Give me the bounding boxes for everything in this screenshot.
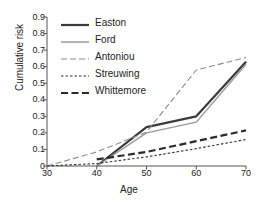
legend-label: Streuwing <box>95 65 139 82</box>
legend-item-whittemore[interactable]: Whittemore <box>61 81 181 98</box>
legend-swatch-icon <box>61 51 89 63</box>
legend-label: Whittemore <box>95 82 146 99</box>
legend-swatch-icon <box>61 85 89 97</box>
legend-label: Ford <box>95 31 116 48</box>
legend-label: Easton <box>95 14 126 31</box>
legend-item-antoniou[interactable]: Antoniou <box>61 47 181 64</box>
series-line-streuwing <box>47 140 246 166</box>
chart-legend: EastonFordAntoniouStreuwingWhittemore <box>61 13 181 98</box>
legend-swatch-icon <box>61 17 89 29</box>
series-line-whittemore <box>97 130 246 159</box>
legend-label: Antoniou <box>95 48 134 65</box>
legend-swatch-icon <box>61 68 89 80</box>
legend-item-ford[interactable]: Ford <box>61 30 181 47</box>
legend-item-streuwing[interactable]: Streuwing <box>61 64 181 81</box>
chart-figure: Cumulative risk Age 00.10.20.30.40.50.60… <box>0 0 258 205</box>
legend-swatch-icon <box>61 34 89 46</box>
legend-item-easton[interactable]: Easton <box>61 13 181 30</box>
